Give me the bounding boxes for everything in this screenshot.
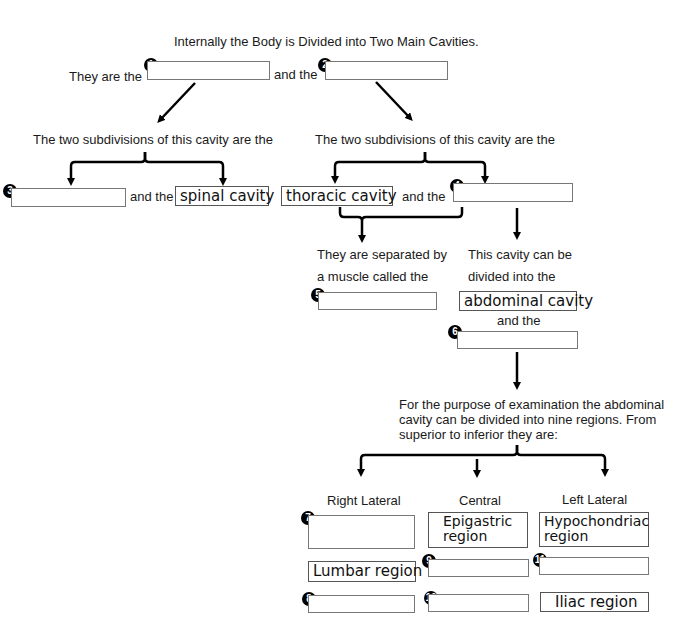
division-line1: This cavity can be xyxy=(468,247,572,262)
answer-field-5[interactable] xyxy=(318,292,437,310)
answer-field-11[interactable] xyxy=(539,557,649,575)
answer-field-3[interactable] xyxy=(11,188,126,207)
column-right-lateral: Right Lateral xyxy=(327,493,401,508)
column-left-lateral: Left Lateral xyxy=(562,492,627,507)
answer-field-2[interactable] xyxy=(325,61,448,80)
answer-field-4[interactable] xyxy=(453,183,573,202)
right-mid: and the xyxy=(402,189,445,204)
division-line2: divided into the xyxy=(468,269,555,284)
row1-mid: and the xyxy=(274,67,317,82)
answer-field-9[interactable] xyxy=(428,559,529,577)
diagram-title: Internally the Body is Divided into Two … xyxy=(174,34,479,49)
given-thoracic-cavity: thoracic cavity xyxy=(281,186,393,206)
regions-intro-line2: cavity can be divided into nine regions.… xyxy=(399,412,656,427)
given-hypochondriac-region: Hypochondriac region xyxy=(539,512,649,547)
given-spinal-cavity: spinal cavity xyxy=(175,186,269,206)
given-lumbar-region: Lumbar region xyxy=(308,561,416,582)
separator-line2: a muscle called the xyxy=(317,269,428,284)
left-subdivisions-heading: The two subdivisions of this cavity are … xyxy=(33,132,273,147)
given-iliac-region: Iliac region xyxy=(540,592,649,612)
answer-field-10[interactable] xyxy=(428,594,529,612)
row1-prefix: They are the xyxy=(69,69,142,84)
answer-field-1[interactable] xyxy=(147,61,270,80)
answer-field-7[interactable] xyxy=(308,515,415,549)
answer-field-8[interactable] xyxy=(308,595,415,613)
division-mid: and the xyxy=(497,313,540,328)
given-abdominal-cavity: abdominal cavity xyxy=(459,291,577,311)
separator-line1: They are separated by xyxy=(317,247,447,262)
column-central: Central xyxy=(459,493,501,508)
regions-intro-line1: For the purpose of examination the abdom… xyxy=(399,397,664,412)
left-mid: and the xyxy=(130,189,173,204)
regions-intro-line3: superior to inferior they are: xyxy=(399,427,558,442)
given-epigastric-region: Epigastric region xyxy=(428,512,528,548)
answer-field-6[interactable] xyxy=(457,331,578,349)
right-subdivisions-heading: The two subdivisions of this cavity are … xyxy=(315,132,555,147)
